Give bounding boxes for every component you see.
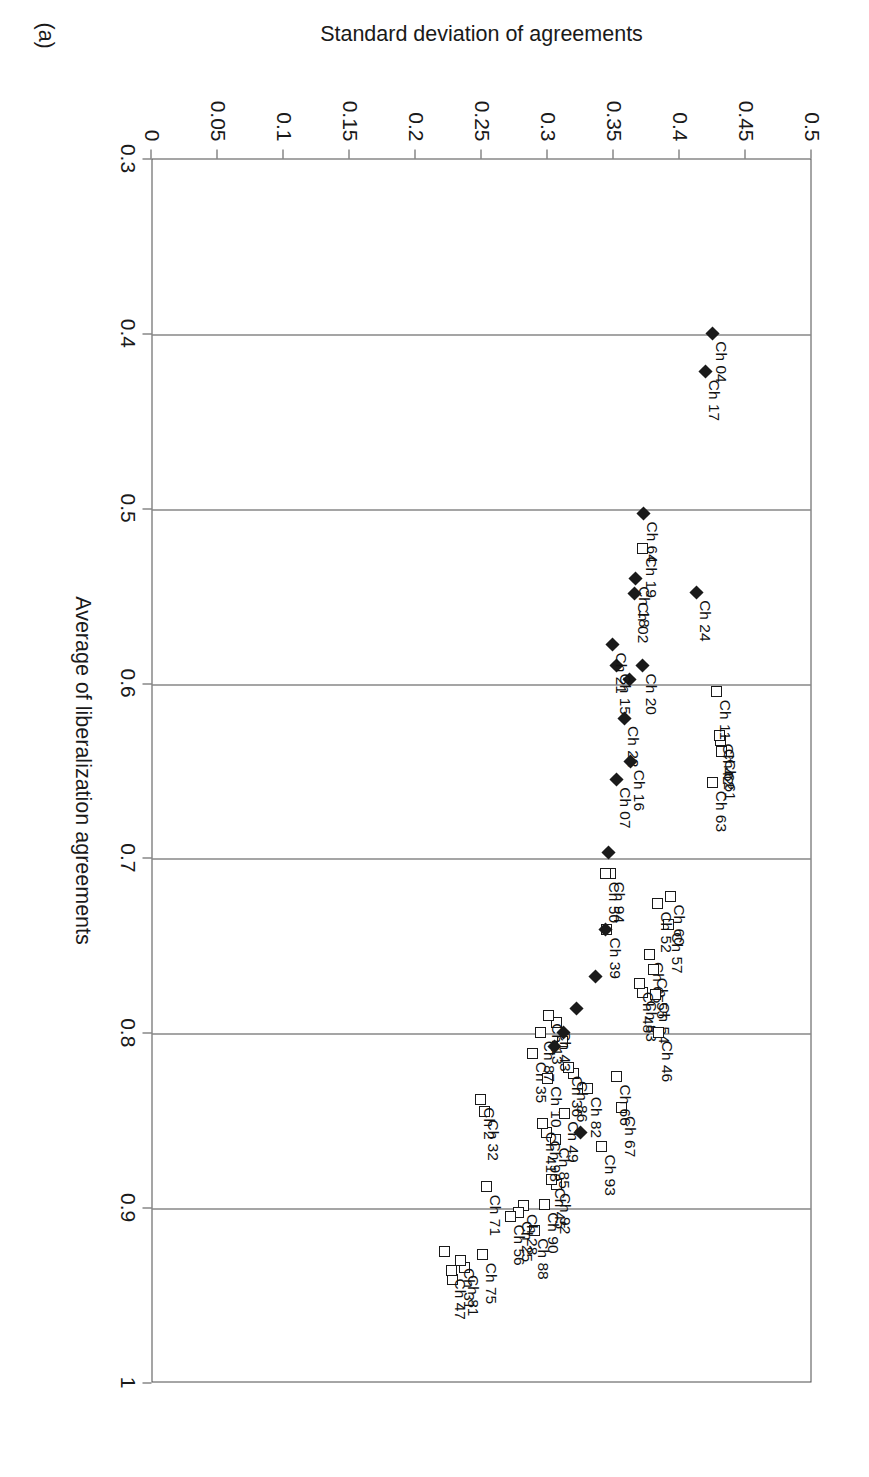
data-point-label: Ch 10	[548, 1086, 564, 1127]
data-point-label: Ch 42	[719, 743, 735, 784]
data-point-label: Ch 21	[612, 652, 628, 693]
data-point-square	[647, 964, 658, 975]
y-axis-tick	[480, 149, 481, 158]
data-point-label: Ch 11	[716, 699, 732, 739]
data-point-square	[596, 1140, 607, 1151]
data-point-square	[634, 978, 645, 989]
data-point-label: Ch 56	[511, 1224, 527, 1265]
y-axis-tick-label: 0	[139, 129, 163, 141]
rotated-figure-wrapper: 0.30.40.50.60.70.80.9100.050.10.150.20.2…	[0, 0, 869, 1477]
data-point-label: Ch 20	[643, 673, 659, 714]
data-point-square	[707, 777, 718, 788]
data-point-label: Ch 17	[706, 379, 722, 420]
data-point-square	[559, 1107, 570, 1118]
y-axis-tick-label: 0.2	[403, 112, 427, 141]
gridline-vertical	[152, 858, 810, 859]
data-point-square	[543, 1009, 554, 1020]
data-point-label: Ch 66	[616, 1084, 632, 1125]
y-axis-tick-label: 0.1	[271, 112, 295, 141]
x-axis-tick	[142, 508, 151, 509]
figure-canvas: 0.30.40.50.60.70.80.9100.050.10.150.20.2…	[0, 0, 869, 1477]
x-axis-tick-label: 0.3	[115, 143, 139, 172]
y-axis-tick-label: 0.5	[799, 112, 823, 141]
data-point-square	[710, 686, 721, 697]
y-axis-tick	[414, 149, 415, 158]
x-axis-tick-label: 0.5	[115, 493, 139, 522]
y-axis-tick	[612, 149, 613, 158]
y-axis-tick-label: 0.45	[733, 100, 757, 141]
data-point-square	[539, 1198, 550, 1209]
data-point-label: Ch 24	[697, 600, 713, 641]
data-point-label: Ch 46	[658, 1040, 674, 1081]
y-axis-tick-label: 0.4	[667, 112, 691, 141]
data-point-label: Ch 39	[607, 937, 623, 978]
data-point-label: Ch 04	[713, 341, 729, 382]
x-axis-tick	[142, 857, 151, 858]
data-point-square	[600, 868, 611, 879]
panel-tag: (a)	[32, 22, 57, 48]
data-point-label: Ch 2	[480, 1107, 496, 1140]
y-axis-tick	[810, 149, 811, 158]
gridline-vertical	[152, 1033, 810, 1034]
data-point-square	[439, 1245, 450, 1256]
x-axis-tick	[142, 333, 151, 334]
data-point-square	[454, 1254, 465, 1265]
data-point-label: Ch 02	[635, 601, 651, 642]
x-axis-tick-label: 0.4	[115, 318, 139, 347]
data-point-square	[474, 1093, 485, 1104]
data-point-square	[477, 1249, 488, 1260]
y-axis-title: Standard deviation of agreements	[320, 22, 643, 47]
data-point-square	[536, 1118, 547, 1129]
data-point-label: Ch 41	[542, 1131, 558, 1172]
gridline-vertical	[152, 509, 810, 510]
x-axis-tick-label: 0.6	[115, 668, 139, 697]
gridline-vertical	[152, 1208, 810, 1209]
y-axis-tick	[282, 149, 283, 158]
data-point-square	[651, 897, 662, 908]
x-axis-tick	[142, 683, 151, 684]
data-point-label: Ch 71	[487, 1194, 503, 1235]
x-axis-tick-label: 0.7	[115, 843, 139, 872]
y-axis-tick-label: 0.3	[535, 112, 559, 141]
data-point-label: Ch 36	[569, 1075, 585, 1116]
data-point-square	[445, 1265, 456, 1276]
data-point-square	[610, 1071, 621, 1082]
data-point-square	[643, 948, 654, 959]
y-axis-tick	[546, 149, 547, 158]
data-point-square	[664, 890, 675, 901]
data-point-label: Ch 64	[644, 521, 660, 562]
data-point-label: Ch 52	[657, 911, 673, 952]
data-point-label: Ch 93	[602, 1154, 618, 1195]
y-axis-tick	[348, 149, 349, 158]
y-axis-tick-label: 0.15	[337, 100, 361, 141]
data-point-square	[652, 1027, 663, 1038]
data-point-label: Ch 07	[616, 787, 632, 828]
data-point-square	[481, 1181, 492, 1192]
data-point-square	[535, 1027, 546, 1038]
data-point-square	[527, 1048, 538, 1059]
y-axis-tick-label: 0.35	[601, 100, 625, 141]
y-axis-tick-label: 0.25	[469, 100, 493, 141]
x-axis-tick-label: 1	[115, 1376, 139, 1388]
data-point-label: Ch 75	[483, 1262, 499, 1303]
data-point-label: Ch 50	[606, 881, 622, 922]
x-axis-tick-label: 0.9	[115, 1193, 139, 1222]
x-axis-title: Average of liberalization agreements	[69, 596, 94, 945]
x-axis-tick	[142, 1032, 151, 1033]
x-axis-tick	[142, 1207, 151, 1208]
data-point-label: Ch 47	[451, 1278, 467, 1319]
x-axis-tick	[142, 1382, 151, 1383]
y-axis-tick	[744, 149, 745, 158]
y-axis-tick	[216, 149, 217, 158]
data-point-square	[505, 1210, 516, 1221]
y-axis-tick	[150, 149, 151, 158]
y-axis-tick	[678, 149, 679, 158]
x-axis-tick-label: 0.8	[115, 1018, 139, 1047]
y-axis-tick-label: 0.05	[205, 100, 229, 141]
gridline-vertical	[152, 684, 810, 685]
